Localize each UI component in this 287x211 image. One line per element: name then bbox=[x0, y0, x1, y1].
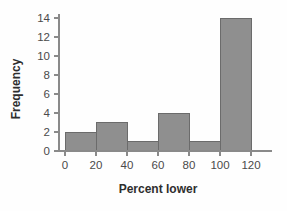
y-tick-label: 8 bbox=[44, 69, 50, 81]
x-tick-label: 120 bbox=[241, 159, 260, 171]
table-row bbox=[65, 132, 96, 151]
histogram-figure: 14 12 10 8 6 4 2 0 bbox=[0, 0, 287, 211]
y-tick-label: 6 bbox=[44, 88, 50, 100]
x-tick-label: 80 bbox=[183, 159, 196, 171]
table-row bbox=[220, 18, 251, 151]
x-axis-title: Percent lower bbox=[119, 182, 198, 196]
table-row bbox=[189, 142, 220, 152]
y-tick-label: 4 bbox=[44, 107, 51, 119]
x-tick-label: 40 bbox=[121, 159, 134, 171]
y-tick-label: 0 bbox=[44, 145, 50, 157]
y-tick-label: 14 bbox=[37, 12, 50, 24]
x-tick-label: 60 bbox=[152, 159, 165, 171]
y-tick-label: 12 bbox=[37, 31, 50, 43]
y-tick-label: 10 bbox=[37, 50, 50, 62]
chart-canvas: 14 12 10 8 6 4 2 0 bbox=[0, 0, 287, 211]
table-row bbox=[158, 113, 189, 151]
table-row bbox=[127, 142, 158, 152]
x-tick-label: 100 bbox=[210, 159, 229, 171]
table-row bbox=[96, 123, 127, 152]
x-tick-label: 0 bbox=[62, 159, 68, 171]
x-tick-label: 20 bbox=[90, 159, 103, 171]
y-tick-label: 2 bbox=[44, 126, 50, 138]
y-axis-title: Frequency bbox=[9, 58, 23, 119]
